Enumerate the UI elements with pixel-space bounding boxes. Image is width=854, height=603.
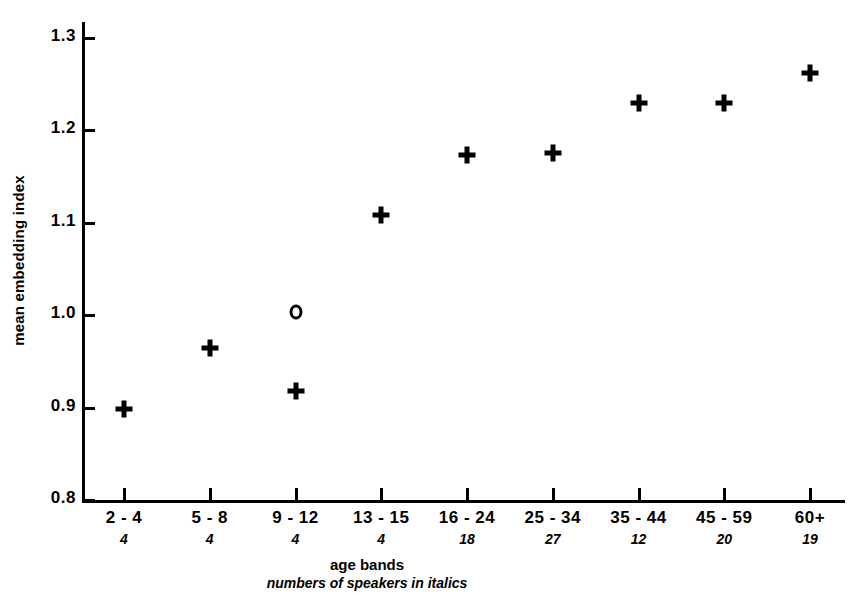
data-point-plus — [716, 94, 733, 111]
y-axis-tick-label: 1.0 — [51, 303, 76, 323]
y-axis-line — [82, 22, 85, 503]
x-axis-tick-mark — [809, 488, 812, 501]
band-name: 13 - 15 — [353, 508, 409, 528]
y-axis-tick-mark — [82, 129, 95, 132]
data-point-plus — [287, 382, 304, 399]
x-axis-tick-mark — [380, 488, 383, 501]
data-point-plus — [373, 207, 390, 224]
y-axis-tick-mark — [82, 314, 95, 317]
x-axis-title: age bands numbers of speakers in italics — [0, 556, 854, 591]
x-axis-band-label: 13 - 154 — [353, 508, 409, 547]
band-name: 35 - 44 — [610, 508, 666, 528]
band-name: 5 - 8 — [191, 508, 228, 528]
x-axis-tick-mark — [209, 488, 212, 501]
band-speaker-count: 18 — [439, 531, 495, 547]
band-name: 9 - 12 — [272, 508, 318, 528]
x-axis-tick-mark — [295, 488, 298, 501]
band-name: 25 - 34 — [525, 508, 581, 528]
y-axis-tick-label: 0.9 — [51, 396, 76, 416]
x-axis-band-label: 25 - 3427 — [525, 508, 581, 547]
band-speaker-count: 4 — [353, 531, 409, 547]
chart-figure: mean embedding index 1.31.21.11.00.90.8 … — [0, 0, 854, 603]
band-speaker-count: 20 — [696, 531, 752, 547]
band-speaker-count: 19 — [795, 531, 825, 547]
x-axis-band-label: 45 - 5920 — [696, 508, 752, 547]
x-axis-title-note: numbers of speakers in italics — [0, 575, 734, 591]
data-point-outlier-circle — [289, 305, 302, 320]
y-axis-tick-label: 1.3 — [51, 26, 76, 46]
band-speaker-count: 12 — [610, 531, 666, 547]
band-name: 16 - 24 — [439, 508, 495, 528]
y-axis-tick-label: 0.8 — [51, 488, 76, 508]
x-axis-band-label: 16 - 2418 — [439, 508, 495, 547]
data-point-plus — [802, 65, 819, 82]
data-point-plus — [459, 147, 476, 164]
band-name: 60+ — [795, 508, 825, 528]
y-axis-title: mean embedding index — [0, 0, 36, 520]
x-axis-band-label: 35 - 4412 — [610, 508, 666, 547]
plot-area: 1.31.21.11.00.90.8 — [82, 22, 845, 502]
x-axis-tick-mark — [123, 488, 126, 501]
band-name: 45 - 59 — [696, 508, 752, 528]
band-speaker-count: 27 — [525, 531, 581, 547]
x-axis-tick-mark — [552, 488, 555, 501]
data-point-plus — [630, 94, 647, 111]
data-point-plus — [544, 144, 561, 161]
data-point-plus — [201, 339, 218, 356]
x-axis-band-label: 5 - 84 — [191, 508, 228, 547]
data-point-plus — [116, 401, 133, 418]
x-axis-line — [82, 500, 845, 503]
x-axis-tick-mark — [723, 488, 726, 501]
x-axis-title-text: age bands — [0, 556, 734, 573]
band-speaker-count: 4 — [106, 531, 143, 547]
band-speaker-count: 4 — [272, 531, 318, 547]
y-axis-tick-mark — [82, 37, 95, 40]
y-axis-title-text: mean embedding index — [10, 175, 27, 346]
y-axis-tick-label: 1.1 — [51, 211, 76, 231]
x-axis-tick-mark — [638, 488, 641, 501]
y-axis-tick-label: 1.2 — [51, 118, 76, 138]
x-axis-tick-mark — [466, 488, 469, 501]
y-axis-tick-mark — [82, 222, 95, 225]
y-axis-tick-mark — [82, 499, 95, 502]
band-speaker-count: 4 — [191, 531, 228, 547]
x-axis-band-label: 60+19 — [795, 508, 825, 547]
x-axis-band-label: 2 - 44 — [106, 508, 143, 547]
x-axis-band-label: 9 - 124 — [272, 508, 318, 547]
band-name: 2 - 4 — [106, 508, 143, 528]
y-axis-tick-mark — [82, 407, 95, 410]
